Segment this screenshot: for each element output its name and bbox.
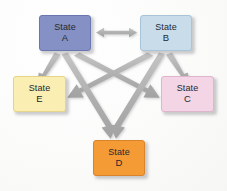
state-node-c-label-id: C bbox=[184, 94, 191, 104]
state-node-e[interactable]: State E bbox=[13, 76, 66, 112]
state-node-a-label-top: State bbox=[54, 23, 76, 33]
state-node-a[interactable]: State A bbox=[39, 15, 91, 51]
state-node-b-label-id: B bbox=[163, 33, 169, 43]
state-diagram: State A State B State E State C State D bbox=[0, 0, 227, 191]
state-node-d-label-top: State bbox=[108, 148, 130, 158]
state-node-d[interactable]: State D bbox=[93, 140, 145, 176]
state-node-b[interactable]: State B bbox=[140, 15, 192, 51]
state-node-c-label-top: State bbox=[177, 84, 199, 94]
state-node-e-label-top: State bbox=[29, 84, 51, 94]
state-node-b-label-top: State bbox=[155, 23, 177, 33]
state-node-d-label-id: D bbox=[116, 158, 123, 168]
state-node-c[interactable]: State C bbox=[161, 76, 214, 112]
state-node-e-label-id: E bbox=[36, 94, 42, 104]
state-node-a-label-id: A bbox=[62, 33, 68, 43]
edge-a-b-bidirectional bbox=[96, 28, 137, 37]
